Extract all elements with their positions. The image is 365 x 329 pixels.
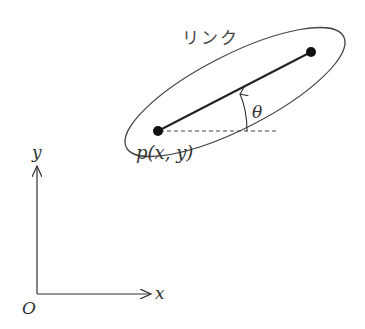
link-label: リンク xyxy=(182,28,239,48)
angle-arc-arrow-icon xyxy=(240,94,247,131)
y-axis-label: y xyxy=(31,142,42,162)
x-axis-label: x xyxy=(155,283,165,303)
link-segment xyxy=(158,52,311,131)
joint-point-end xyxy=(306,47,316,57)
point-label: p(x, y) xyxy=(136,142,193,163)
angle-label: θ xyxy=(252,102,262,122)
origin-label: O xyxy=(22,298,36,318)
joint-point-p xyxy=(153,126,163,136)
link-diagram: リンク θ p(x, y) y x O xyxy=(0,0,365,329)
